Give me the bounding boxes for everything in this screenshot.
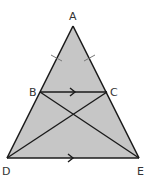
label-d: D — [2, 165, 10, 178]
label-a: A — [69, 10, 77, 23]
label-b: B — [29, 86, 37, 99]
label-c: C — [110, 86, 118, 99]
label-e: E — [137, 165, 144, 178]
triangle-diagram: A B C D E — [0, 0, 150, 179]
